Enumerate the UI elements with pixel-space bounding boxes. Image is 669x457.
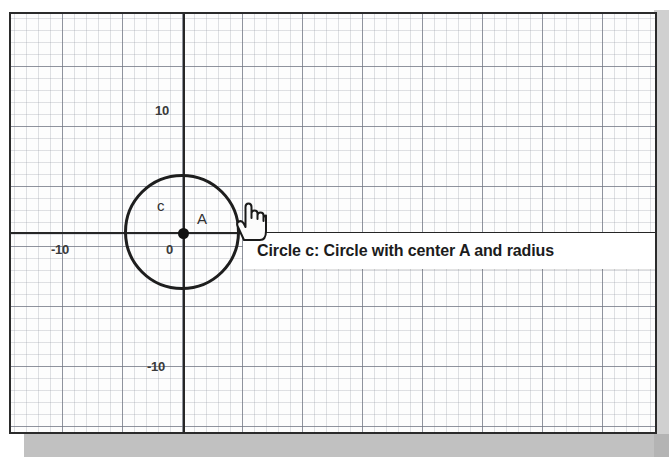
point-label-a[interactable]: A [197, 210, 207, 227]
bottom-panel-band [24, 434, 669, 457]
y-axis-tick-label-10: 10 [155, 103, 169, 118]
circle-label-c[interactable]: c [157, 197, 165, 214]
screenshot-root: 10 -10 -10 0 c A Circle c: Circle with c… [0, 0, 669, 457]
x-axis-tick-label-minus-10: -10 [51, 242, 69, 257]
grid-minor-lines [11, 14, 655, 432]
y-axis-tick-label-minus-10: -10 [147, 359, 165, 374]
tooltip-suffix: : Circle with center A and radius [314, 242, 554, 259]
point-object-a[interactable] [178, 228, 189, 239]
object-tooltip: Circle c: Circle with center A and radiu… [243, 233, 657, 269]
tooltip-object-name: c [305, 242, 314, 259]
grid-major-lines [11, 14, 655, 432]
tooltip-prefix: Circle [257, 242, 305, 259]
graphics-view[interactable]: 10 -10 -10 0 c A Circle c: Circle with c… [9, 12, 657, 434]
tooltip-text: Circle c: Circle with center A and radiu… [257, 242, 554, 260]
